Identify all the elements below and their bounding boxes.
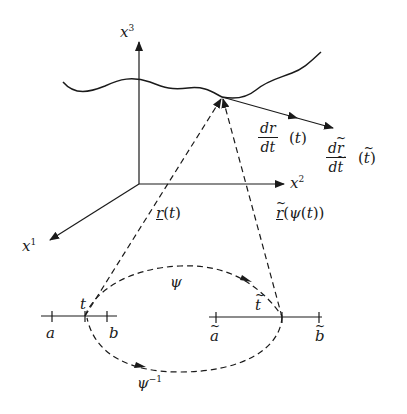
tangent-vector-1	[222, 97, 297, 118]
position-vector-r	[85, 99, 221, 316]
dr-tilde-argument: (~(t)t)	[358, 151, 376, 166]
r-tilde-of-psi-label: ~r(ψ(t))	[276, 206, 324, 221]
r-of-t-label: r(t)	[156, 206, 181, 221]
psi-arc	[85, 266, 282, 316]
dr-dt-argument: (t)	[289, 131, 307, 146]
x1-axis	[50, 184, 139, 240]
diagram-canvas	[0, 0, 407, 414]
psi-label: ψ	[170, 275, 182, 290]
psi-inverse-arrowhead	[134, 362, 146, 368]
dr-tilde-dt-tilde: d~r dt~	[326, 141, 346, 174]
x2-axis-label: x2	[290, 175, 304, 191]
reparametrization-diagram: x3 x2 x1 r(t) ~r(ψ(t)) dr dt (t) d~r dt~…	[0, 0, 407, 414]
label-a-tilde: ~a	[210, 329, 219, 344]
label-a: a	[46, 326, 55, 341]
psi-arrowhead	[240, 275, 252, 282]
label-t: t	[80, 297, 86, 312]
psi-inverse-label: ψ−1	[137, 375, 162, 391]
tangent-vector-2	[297, 118, 333, 128]
label-b: b	[109, 326, 119, 341]
dr-dt-numerator-denominator: dr dt	[258, 121, 278, 154]
x1-axis-label: x1	[22, 238, 36, 254]
label-t-tilde: ~t	[255, 298, 261, 313]
space-curve	[63, 52, 321, 98]
x3-axis-label: x3	[120, 24, 134, 40]
label-b-tilde: ~b	[315, 329, 325, 344]
